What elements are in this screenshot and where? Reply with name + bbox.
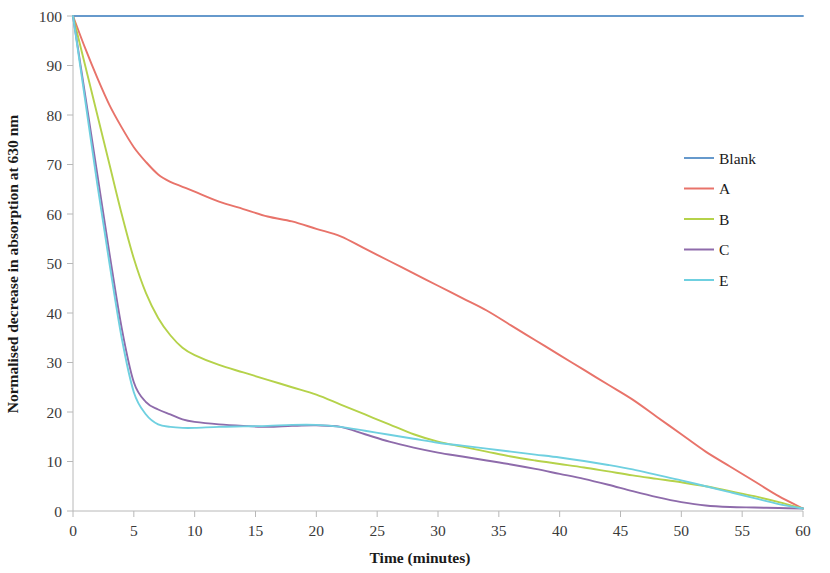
legend-label-e: E (719, 272, 728, 289)
line-chart: 0102030405060708090100 05101520253035404… (0, 0, 830, 573)
x-tick-label: 50 (674, 522, 690, 539)
x-tick-label: 0 (69, 522, 77, 539)
y-tick-label: 50 (47, 255, 63, 272)
series-line-c (73, 16, 803, 509)
series-line-b (73, 16, 803, 509)
legend-label-b: B (719, 211, 729, 228)
series-line-a (73, 16, 803, 509)
x-tick-label: 10 (187, 522, 203, 539)
y-tick-label: 100 (39, 8, 63, 25)
series-group (73, 16, 803, 509)
y-tick-label: 70 (47, 156, 63, 173)
x-tick-label: 60 (795, 522, 811, 539)
y-tick-label: 30 (47, 354, 63, 371)
legend-label-blank: Blank (719, 150, 756, 167)
chart-legend: BlankABCE (684, 150, 756, 289)
x-tick-label: 15 (248, 522, 264, 539)
legend-label-a: A (719, 180, 731, 197)
chart-container: 0102030405060708090100 05101520253035404… (0, 0, 830, 573)
legend-label-c: C (719, 241, 729, 258)
x-tick-label: 35 (491, 522, 507, 539)
x-tick-label: 55 (734, 522, 750, 539)
y-tick-label: 80 (47, 107, 63, 124)
y-axis-title: Normalised decrease in absorption at 630… (4, 115, 21, 414)
y-tick-label: 40 (47, 305, 63, 322)
x-tick-label: 40 (552, 522, 568, 539)
y-tick-label: 0 (54, 503, 62, 520)
x-tick-label: 5 (130, 522, 138, 539)
y-tick-label: 90 (47, 57, 63, 74)
x-tick-label: 25 (369, 522, 385, 539)
y-axis-ticks: 0102030405060708090100 (39, 8, 73, 520)
series-line-e (73, 16, 803, 509)
x-tick-label: 20 (309, 522, 325, 539)
x-tick-label: 45 (613, 522, 629, 539)
x-axis-ticks: 051015202530354045505560 (69, 511, 811, 539)
y-tick-label: 60 (47, 206, 63, 223)
x-tick-label: 30 (430, 522, 446, 539)
y-tick-label: 20 (47, 404, 63, 421)
y-tick-label: 10 (47, 453, 63, 470)
x-axis-title: Time (minutes) (370, 549, 471, 567)
